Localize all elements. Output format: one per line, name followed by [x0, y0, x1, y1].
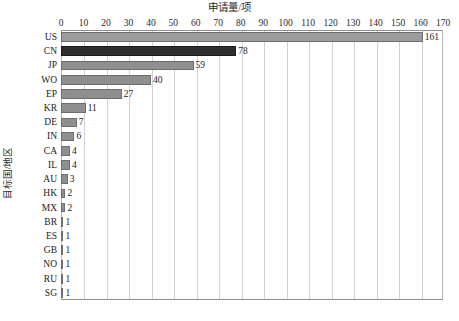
x-axis-tick-labels: 0102030405060708090100110120130140150160…	[0, 17, 459, 29]
bar-value-gb: 1	[63, 243, 70, 257]
x-axis-tick-130: 130	[346, 17, 360, 29]
bar-row: MX2	[0, 201, 459, 215]
bar-au[interactable]	[61, 174, 68, 184]
category-label-ru: RU	[14, 272, 57, 286]
bar-row: RU1	[0, 272, 459, 286]
bar-row: WO40	[0, 73, 459, 87]
bar-il[interactable]	[61, 160, 70, 170]
x-axis-tick-50: 50	[169, 17, 179, 29]
bar-row: BR1	[0, 215, 459, 229]
bar-value-hk: 2	[65, 186, 72, 200]
x-axis-tick-10: 10	[79, 17, 89, 29]
x-axis-tick-120: 120	[324, 17, 338, 29]
bar-value-ru: 1	[63, 272, 70, 286]
bar-value-es: 1	[63, 229, 70, 243]
bar-kr[interactable]	[61, 103, 86, 113]
bar-value-au: 3	[68, 172, 75, 186]
chart-title: 申请量/项	[0, 1, 459, 14]
bar-chart: 申请量/项 目标国/地区 010203040506070809010011012…	[0, 0, 459, 321]
bar-value-kr: 11	[86, 101, 97, 115]
category-label-kr: KR	[14, 101, 57, 115]
x-axis-tick-0: 0	[59, 17, 64, 29]
bar-value-ca: 4	[70, 144, 77, 158]
bar-cn[interactable]	[61, 46, 236, 56]
category-label-no: NO	[14, 257, 57, 271]
bar-ca[interactable]	[61, 146, 70, 156]
category-label-ep: EP	[14, 87, 57, 101]
bar-value-jp: 59	[194, 58, 206, 72]
bar-value-de: 7	[77, 115, 84, 129]
bar-row: JP59	[0, 58, 459, 72]
bar-ep[interactable]	[61, 89, 122, 99]
x-axis-tick-30: 30	[124, 17, 134, 29]
bar-row: HK2	[0, 186, 459, 200]
x-axis-tick-160: 160	[413, 17, 427, 29]
x-axis-tick-40: 40	[146, 17, 156, 29]
bar-value-no: 1	[63, 257, 70, 271]
category-label-mx: MX	[14, 201, 57, 215]
category-label-de: DE	[14, 115, 57, 129]
x-axis-tick-80: 80	[236, 17, 246, 29]
bar-value-mx: 2	[65, 201, 72, 215]
bar-row: EP27	[0, 87, 459, 101]
x-axis-tick-110: 110	[301, 17, 315, 29]
bar-in[interactable]	[61, 132, 74, 142]
bar-value-cn: 78	[236, 44, 248, 58]
category-label-gb: GB	[14, 243, 57, 257]
bar-value-br: 1	[63, 215, 70, 229]
category-label-ca: CA	[14, 144, 57, 158]
bar-row: KR11	[0, 101, 459, 115]
bar-row: IN6	[0, 129, 459, 143]
x-axis-tick-140: 140	[368, 17, 382, 29]
x-axis-tick-20: 20	[101, 17, 111, 29]
bar-value-ep: 27	[122, 87, 134, 101]
bar-de[interactable]	[61, 118, 77, 128]
bar-row: US161	[0, 30, 459, 44]
category-label-il: IL	[14, 158, 57, 172]
bar-row: DE7	[0, 115, 459, 129]
bar-row: CA4	[0, 144, 459, 158]
bar-value-sg: 1	[63, 286, 70, 300]
x-axis-tick-60: 60	[191, 17, 201, 29]
bar-row: ES1	[0, 229, 459, 243]
category-label-sg: SG	[14, 286, 57, 300]
category-label-in: IN	[14, 129, 57, 143]
category-label-es: ES	[14, 229, 57, 243]
bar-jp[interactable]	[61, 61, 194, 71]
category-label-us: US	[14, 30, 57, 44]
bar-wo[interactable]	[61, 75, 151, 85]
bar-row: NO1	[0, 257, 459, 271]
bar-value-il: 4	[70, 158, 77, 172]
category-label-jp: JP	[14, 58, 57, 72]
bar-value-us: 161	[423, 30, 439, 44]
category-label-cn: CN	[14, 44, 57, 58]
x-axis-tick-170: 170	[436, 17, 450, 29]
category-label-au: AU	[14, 172, 57, 186]
category-label-br: BR	[14, 215, 57, 229]
x-axis-tick-100: 100	[279, 17, 293, 29]
bar-row: AU3	[0, 172, 459, 186]
x-axis-tick-70: 70	[214, 17, 224, 29]
bar-row: IL4	[0, 158, 459, 172]
x-axis-tick-90: 90	[258, 17, 268, 29]
bar-us[interactable]	[61, 32, 423, 42]
x-axis-tick-150: 150	[391, 17, 405, 29]
bar-row: GB1	[0, 243, 459, 257]
bar-value-in: 6	[74, 129, 81, 143]
category-label-wo: WO	[14, 73, 57, 87]
bar-value-wo: 40	[151, 73, 163, 87]
category-label-hk: HK	[14, 186, 57, 200]
bar-row: SG1	[0, 286, 459, 300]
bar-row: CN78	[0, 44, 459, 58]
